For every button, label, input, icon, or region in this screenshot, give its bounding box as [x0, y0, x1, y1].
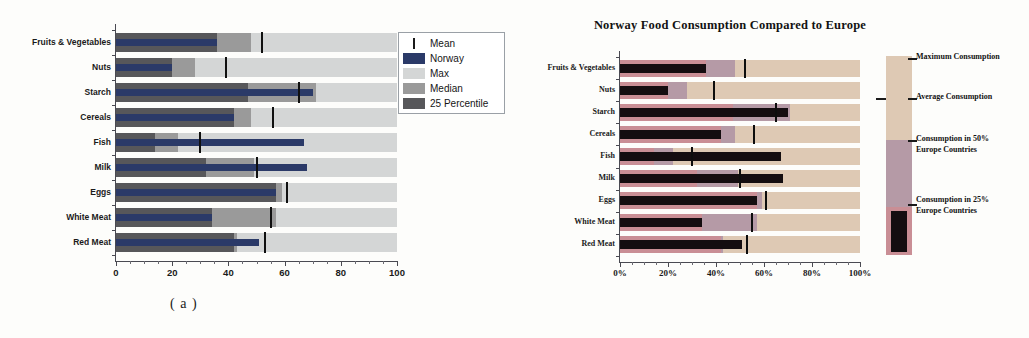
legend-label-line2: Europe Countries	[916, 206, 989, 217]
legend-label-0: Mean	[430, 38, 455, 49]
bar-row: White Meat	[116, 208, 397, 227]
x-axis-minor-tick	[369, 261, 370, 264]
y-axis-tick	[112, 255, 116, 256]
x-axis-minor-tick	[327, 261, 328, 264]
legend-label-2: Max	[430, 68, 449, 79]
x-axis-minor-tick	[257, 261, 258, 264]
mean-marker	[272, 107, 274, 128]
x-axis-minor-tick	[158, 261, 159, 264]
bar-row: Eggs	[620, 192, 860, 209]
category-label-eggs: Eggs	[90, 188, 116, 197]
norway-bar	[116, 114, 234, 121]
x-axis-minor-tick	[644, 262, 645, 265]
norway-bar	[116, 189, 276, 196]
norway-bar	[620, 152, 781, 161]
legend-label-1: Norway	[430, 53, 464, 64]
category-label-fruits-vegetables: Fruits & Vegetables	[32, 38, 116, 47]
x-axis-minor-tick	[776, 262, 777, 265]
x-axis-minor-tick	[824, 262, 825, 265]
norway-bar	[116, 239, 259, 246]
mean-marker	[753, 125, 755, 144]
panel-b-plot-area: Fruits & VegetablesNutsStarchCerealsFish…	[620, 57, 860, 256]
bar-row: Starch	[116, 83, 397, 102]
y-axis-tick	[616, 101, 620, 102]
color-swatch-icon	[403, 83, 425, 94]
legend-row-4: 25 Percentile	[403, 96, 500, 111]
y-axis-tick	[112, 55, 116, 56]
legend-gradient-bar	[886, 56, 912, 255]
x-axis-minor-tick	[740, 262, 741, 265]
x-axis-label-0: 0%	[613, 268, 627, 278]
category-label-nuts: Nuts	[599, 86, 620, 94]
x-axis-minor-tick	[186, 261, 187, 264]
norway-bar	[620, 108, 788, 117]
panel-a-plot-area: Fruits & VegetablesNutsStarchCerealsFish…	[116, 30, 397, 255]
panel-b-title: Norway Food Consumption Compared to Euro…	[510, 18, 950, 33]
norway-bar	[620, 174, 783, 183]
y-axis-tick	[616, 79, 620, 80]
x-axis-minor-tick	[680, 262, 681, 265]
bar-row: Milk	[116, 158, 397, 177]
mean-marker	[713, 81, 715, 100]
norway-bar	[620, 196, 757, 205]
mean-marker	[270, 207, 272, 228]
category-label-cereals: Cereals	[589, 130, 620, 138]
category-label-nuts: Nuts	[92, 63, 116, 72]
bar-row: Starch	[620, 104, 860, 121]
legend-label-line1: Consumption in 50%	[916, 134, 989, 145]
y-axis-tick	[616, 123, 620, 124]
x-axis-minor-tick	[271, 261, 272, 264]
x-axis-major-tick	[764, 262, 765, 267]
x-axis-minor-tick	[752, 262, 753, 265]
x-axis-major-tick	[116, 261, 117, 266]
bar-row: Fruits & Vegetables	[116, 33, 397, 52]
category-label-red-meat: Red Meat	[581, 240, 620, 248]
category-label-fruits-vegetables: Fruits & Vegetables	[547, 64, 620, 72]
y-axis-tick	[112, 205, 116, 206]
norway-bar	[116, 164, 307, 171]
mean-marker	[261, 32, 263, 53]
norway-bar	[620, 130, 721, 139]
y-axis-line	[115, 24, 116, 261]
x-axis-minor-tick	[704, 262, 705, 265]
x-axis-major-tick	[860, 262, 861, 267]
mean-marker	[739, 169, 741, 188]
category-label-red-meat: Red Meat	[73, 238, 116, 247]
x-axis-minor-tick	[656, 262, 657, 265]
legend-label-3: Median	[430, 83, 463, 94]
color-swatch-icon	[403, 68, 425, 79]
norway-bar	[116, 64, 172, 71]
legend-average-dash	[876, 98, 886, 100]
x-axis-minor-tick	[788, 262, 789, 265]
x-axis-major-tick	[341, 261, 342, 266]
legend-label-2: Consumption in 50%Europe Countries	[916, 134, 989, 155]
x-axis-minor-tick	[299, 261, 300, 264]
norway-bar	[116, 214, 212, 221]
x-axis-label-3: 60	[279, 267, 290, 278]
mean-marker	[775, 103, 777, 122]
y-axis-tick	[112, 180, 116, 181]
legend-label-4: 25 Percentile	[430, 98, 488, 109]
category-label-fish: Fish	[94, 138, 116, 147]
x-axis-label-3: 60%	[755, 268, 773, 278]
x-axis-label-5: 100	[389, 267, 405, 278]
category-label-starch: Starch	[85, 88, 116, 97]
category-label-starch: Starch	[592, 108, 620, 116]
legend-row-2: Max	[403, 66, 500, 81]
category-label-milk: Milk	[94, 163, 116, 172]
bar-row: Fish	[116, 133, 397, 152]
bar-row: Nuts	[116, 58, 397, 77]
legend-label-3: Consumption in 25%Europe Countries	[916, 195, 989, 216]
color-swatch-icon	[403, 98, 425, 109]
panel-b-legend: Maximum ConsumptionAverage ConsumptionCo…	[886, 56, 1029, 261]
bar-row: White Meat	[620, 214, 860, 231]
x-axis-minor-tick	[130, 261, 131, 264]
x-axis-minor-tick	[728, 262, 729, 265]
mean-marker	[691, 147, 693, 166]
x-axis-minor-tick	[848, 262, 849, 265]
bar-row: Cereals	[116, 108, 397, 127]
legend-norway-bar	[891, 211, 907, 252]
mean-marker	[225, 57, 227, 78]
y-axis-tick	[112, 155, 116, 156]
x-axis-label-2: 40	[223, 267, 234, 278]
